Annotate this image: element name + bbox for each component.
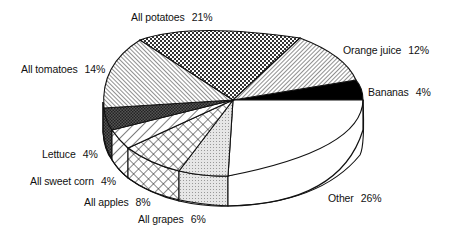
label-other: Other26% [328, 192, 381, 204]
label-orange-juice: Orange juice12% [343, 44, 429, 56]
label-grapes: All grapes6% [138, 213, 206, 225]
label-bananas: Bananas4% [368, 86, 431, 98]
label-apples: All apples8% [84, 196, 151, 208]
label-tomatoes: All tomatoes14% [21, 63, 105, 75]
label-potatoes: All potatoes21% [131, 11, 212, 23]
label-sweet-corn: All sweet corn4% [30, 175, 116, 187]
label-lettuce: Lettuce4% [42, 148, 98, 160]
pie-chart-3d [0, 0, 452, 240]
